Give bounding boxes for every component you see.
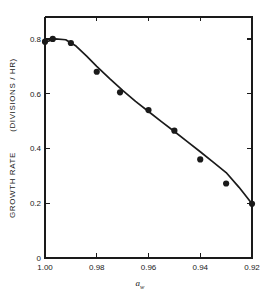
x-axis-tick-labels: 1.000.980.960.940.92 <box>37 263 260 272</box>
x-axis-ticks <box>97 17 201 258</box>
y-axis-title-line1: GROWTH RATE <box>8 152 17 218</box>
data-point-marker <box>197 156 203 162</box>
figure-container: 00.20.40.60.8 1.000.980.960.940.92 GROWT… <box>0 0 273 299</box>
y-tick-label: 0 <box>37 254 42 263</box>
y-tick-label: 0.2 <box>30 199 42 208</box>
axis-frame-lines <box>45 17 252 258</box>
x-tick-label: 0.92 <box>244 263 260 272</box>
y-axis-tick-labels: 00.20.40.60.8 <box>30 35 42 263</box>
x-tick-label: 1.00 <box>37 263 53 272</box>
x-tick-label: 0.98 <box>89 263 105 272</box>
fitted-curve <box>45 39 252 204</box>
y-tick-label: 0.8 <box>30 35 42 44</box>
x-tick-label: 0.94 <box>192 263 208 272</box>
plot-frame <box>45 17 252 258</box>
x-axis-title: aw <box>136 278 146 290</box>
data-point-marker <box>171 128 177 134</box>
data-points <box>42 36 255 207</box>
data-point-marker <box>94 69 100 75</box>
y-axis-title: GROWTH RATE (DIVISIONS / HR) <box>8 58 17 218</box>
y-tick-label: 0.6 <box>30 90 42 99</box>
x-axis-title-symbol: aw <box>136 278 146 290</box>
data-point-marker <box>145 107 151 113</box>
data-point-marker <box>68 40 74 46</box>
data-point-marker <box>117 89 123 95</box>
data-point-marker <box>249 201 255 207</box>
y-axis-title-line2: (DIVISIONS / HR) <box>8 58 17 132</box>
data-point-marker <box>223 180 229 186</box>
x-tick-label: 0.96 <box>141 263 157 272</box>
growth-rate-chart: 00.20.40.60.8 1.000.980.960.940.92 GROWT… <box>0 0 273 299</box>
data-point-marker <box>42 39 48 45</box>
data-point-marker <box>50 36 56 42</box>
y-axis-ticks <box>45 39 252 258</box>
y-tick-label: 0.4 <box>30 144 42 153</box>
